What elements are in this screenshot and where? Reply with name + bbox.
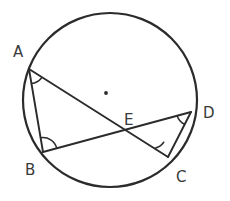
vertex-label-e: E: [124, 111, 133, 129]
circumscribing-circle: [23, 13, 197, 187]
geometry-canvas: A B C D E: [0, 0, 230, 201]
chord-BD: [43, 112, 191, 152]
chord-AC: [29, 69, 168, 157]
angle-marker-C: [155, 142, 164, 148]
angle-markers-group: [32, 78, 185, 148]
vertex-label-d: D: [203, 104, 215, 122]
chords-group: [29, 69, 191, 157]
angle-marker-D: [177, 116, 184, 124]
vertex-label-b: B: [25, 161, 35, 179]
chord-CD: [168, 112, 191, 157]
chord-AB: [29, 69, 43, 152]
angle-marker-A: [32, 78, 42, 84]
geometry-figure: A B C D E: [0, 0, 230, 201]
vertex-label-a: A: [13, 43, 24, 61]
circle-center-dot: [104, 91, 108, 95]
vertex-label-c: C: [176, 168, 186, 186]
